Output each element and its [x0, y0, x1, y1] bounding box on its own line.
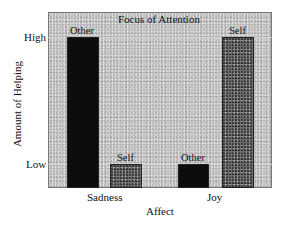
- y-tick-high: High: [24, 31, 46, 43]
- x-axis-label: Affect: [146, 205, 174, 217]
- y-axis-label: Amount of Helping: [11, 61, 23, 147]
- chart-title: Focus of Attention: [118, 13, 200, 25]
- bar-sadness-self: [110, 164, 142, 188]
- y-tick-low: Low: [26, 158, 46, 170]
- bar-label-sadness-other: Other: [70, 25, 94, 37]
- bar-sadness-other: [67, 37, 99, 188]
- bar-label-joy-self: Self: [229, 25, 246, 37]
- bar-label-joy-other: Other: [181, 152, 205, 164]
- bar-joy-other: [178, 164, 209, 188]
- bar-joy-self: [222, 37, 254, 188]
- x-tick-joy: Joy: [207, 191, 222, 203]
- x-tick-sadness: Sadness: [87, 191, 122, 203]
- bar-label-sadness-self: Self: [117, 152, 134, 164]
